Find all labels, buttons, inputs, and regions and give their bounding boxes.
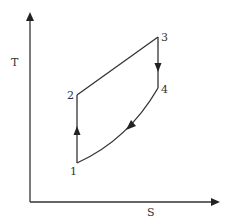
process-4-1 xyxy=(77,88,158,163)
point-label-3: 3 xyxy=(161,31,168,44)
point-label-4: 4 xyxy=(161,83,168,96)
point-label-1: 1 xyxy=(70,165,77,178)
process-2-3 xyxy=(77,37,158,95)
point-label-2: 2 xyxy=(67,89,74,102)
x-axis-arrow-icon xyxy=(211,198,220,206)
x-axis-label: S xyxy=(147,206,155,219)
arrow-down-icon xyxy=(155,63,162,72)
ts-diagram: T S 1 2 3 4 xyxy=(0,0,231,223)
y-axis-arrow-icon xyxy=(26,12,34,21)
y-axis-label: T xyxy=(11,56,19,69)
arrow-up-icon xyxy=(74,126,81,135)
